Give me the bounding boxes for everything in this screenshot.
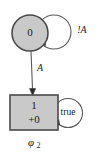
edge-state0-state1-line bbox=[31, 51, 33, 89]
node-state-1-label-line1: 1 bbox=[31, 99, 37, 111]
diagram-canvas: 0 !A A 1 +0 true φ 2 bbox=[0, 0, 96, 160]
node-state-0[interactable]: 0 bbox=[12, 15, 48, 51]
state-transition-diagram: 0 !A A 1 +0 true φ 2 bbox=[0, 0, 96, 160]
diagram-caption-subscript: 2 bbox=[37, 141, 41, 150]
edge-state0-state1-label: A bbox=[36, 62, 44, 73]
diagram-caption-symbol: φ bbox=[28, 136, 34, 148]
node-state-1-label-line2: +0 bbox=[28, 113, 40, 125]
self-loop-state-1-label: true bbox=[61, 107, 76, 117]
node-state-0-label: 0 bbox=[27, 26, 33, 38]
self-loop-state-0-label: !A bbox=[77, 24, 87, 35]
diagram-caption: φ 2 bbox=[28, 136, 41, 150]
edge-state0-state1[interactable] bbox=[30, 51, 36, 96]
node-state-1[interactable]: 1 +0 bbox=[10, 95, 58, 130]
